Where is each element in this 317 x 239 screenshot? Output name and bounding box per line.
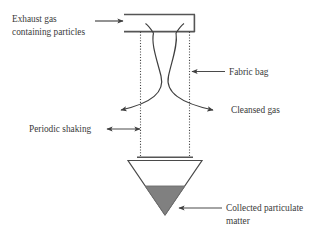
baghouse-filter-diagram: Exhaust gas containing particles Fabric … — [0, 0, 317, 239]
inlet-duct — [124, 15, 195, 33]
label-collected-particulate-line1: Collected particulate — [226, 203, 303, 213]
label-cleansed-gas: Cleansed gas — [231, 105, 280, 115]
hopper — [128, 157, 202, 215]
label-fabric-bag: Fabric bag — [229, 67, 269, 77]
collected-dust-fill — [145, 186, 185, 215]
fabric-bag-walls — [141, 32, 190, 157]
label-exhaust-gas-line2: containing particles — [12, 27, 85, 37]
label-periodic-shaking: Periodic shaking — [29, 124, 92, 134]
diagram-canvas: Exhaust gas containing particles Fabric … — [0, 0, 317, 239]
label-collected-particulate-line2: matter — [226, 216, 251, 226]
label-exhaust-gas-line1: Exhaust gas — [12, 14, 57, 24]
gas-flow-curve-left — [121, 33, 162, 110]
